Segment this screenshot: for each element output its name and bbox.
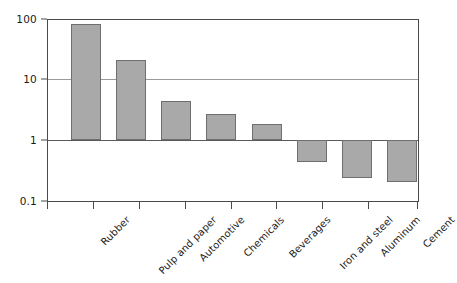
x-label-cement: Cement <box>421 214 457 250</box>
x-label-beverages: Beverages <box>287 214 333 260</box>
x-label-chemicals: Chemicals <box>241 214 286 259</box>
x-label-rubber: Rubber <box>99 214 133 248</box>
